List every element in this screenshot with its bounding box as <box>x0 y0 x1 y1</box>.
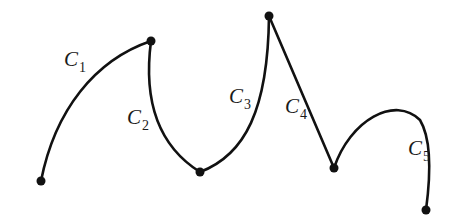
curve-c5 <box>334 110 429 210</box>
endpoint-3 <box>196 168 205 177</box>
label-c2: C2 <box>127 105 149 133</box>
curve-c4 <box>269 16 334 168</box>
endpoint-4 <box>265 12 274 21</box>
label-c3: C3 <box>229 84 251 112</box>
endpoint-2 <box>147 37 156 46</box>
curve-c2 <box>149 41 200 172</box>
endpoint-6 <box>422 206 431 215</box>
endpoint-1 <box>37 177 46 186</box>
endpoint-5 <box>330 164 339 173</box>
label-c1: C1 <box>64 47 86 75</box>
piecewise-curve-diagram: C1 C2 C3 C4 C5 <box>0 0 456 219</box>
